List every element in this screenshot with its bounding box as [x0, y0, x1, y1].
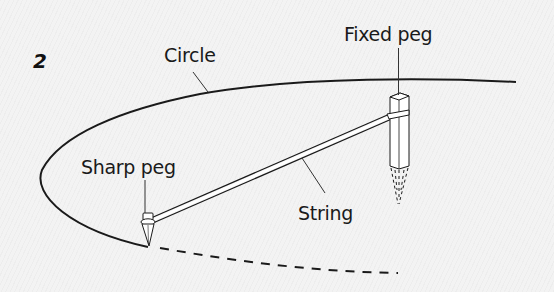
- circle-label: Circle: [164, 46, 216, 65]
- figure-number: 2: [33, 51, 47, 71]
- circle-leader: [193, 72, 208, 92]
- string-label: String: [298, 204, 353, 223]
- string-leader: [302, 158, 325, 193]
- circle-arc-dashed: [160, 248, 398, 273]
- diagram-drawing: [0, 0, 554, 292]
- fixed-peg-label: Fixed peg: [344, 25, 432, 44]
- sharp-peg-label: Sharp peg: [81, 158, 176, 177]
- string: [151, 113, 394, 223]
- sharp-peg: [141, 213, 155, 246]
- fixed-peg: [387, 93, 409, 204]
- diagram-canvas: 2 Circle Fixed peg Sharp peg String: [0, 0, 554, 292]
